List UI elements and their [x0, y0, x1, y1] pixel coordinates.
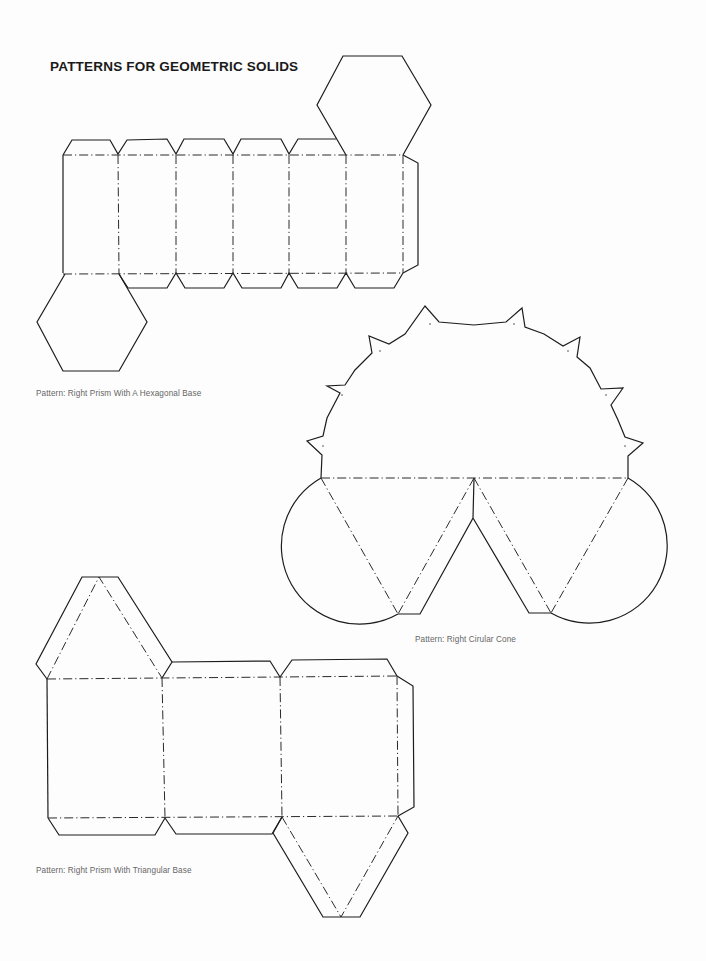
- tri-prism-fold-verticals: [162, 676, 398, 818]
- tri-prism-bottom-triangle-tabs: [273, 816, 408, 917]
- circular-cone-caption: Pattern: Right Cirular Cone: [415, 635, 516, 644]
- hex-prism-fold-verticals: [118, 155, 403, 274]
- document-page: PATTERNS FOR GEOMETRIC SOLIDS: [0, 0, 706, 961]
- hexagonal-prism-caption: Pattern: Right Prism With A Hexagonal Ba…: [36, 389, 201, 398]
- hex-prism-top-hexagon: [317, 56, 431, 155]
- circular-cone-pattern: [281, 306, 667, 624]
- hex-prism-bottom-tabs: [119, 273, 403, 288]
- tri-prism-fold-top-triangle: [47, 577, 162, 679]
- cone-fold-diagonals: [321, 478, 628, 614]
- patterns-drawing: [0, 0, 706, 961]
- tri-prism-fold-bottom-triangle: [282, 816, 398, 917]
- cone-center-tabs: [398, 478, 551, 614]
- tri-prism-fold-bottom: [48, 816, 398, 818]
- tri-prism-top-triangle-tabs: [36, 577, 172, 679]
- hex-prism-fold-bottom: [63, 273, 403, 274]
- cone-tab-dots: [322, 323, 626, 447]
- hex-prism-top-tabs: [63, 139, 336, 155]
- tri-prism-left-edge: [47, 679, 48, 818]
- tri-prism-fold-top: [47, 676, 397, 679]
- cone-sector-arc-with-tabs: [307, 306, 643, 478]
- tri-prism-top-tabs: [172, 659, 397, 677]
- tri-prism-right-tab: [397, 676, 414, 816]
- hexagonal-prism-pattern: [37, 56, 431, 371]
- cone-left-base-circle: [281, 478, 398, 624]
- hex-prism-right-tab: [403, 155, 418, 273]
- triangular-prism-caption: Pattern: Right Prism With Triangular Bas…: [36, 866, 192, 875]
- tri-prism-bottom-tabs: [48, 817, 282, 835]
- cone-right-base-circle: [551, 478, 667, 623]
